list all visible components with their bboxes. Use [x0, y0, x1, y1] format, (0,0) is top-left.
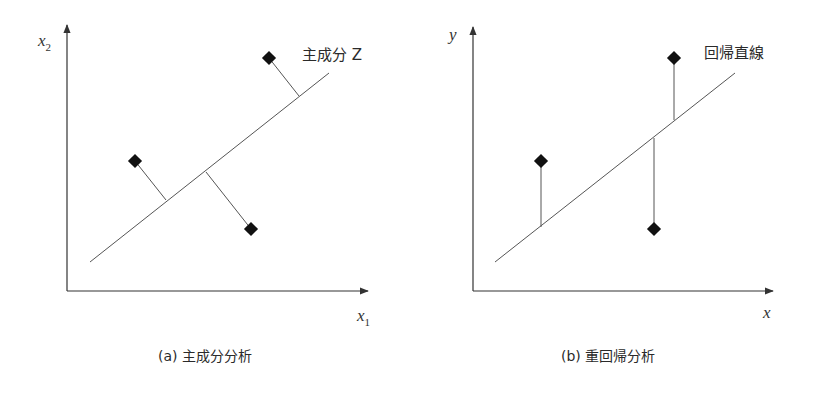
- x1-axis-label: x1: [356, 306, 370, 328]
- regression-line-label: 回帰直線: [704, 44, 764, 62]
- projection-line: [269, 58, 299, 96]
- projection-line: [135, 161, 166, 200]
- data-point-marker: [534, 154, 548, 168]
- data-point-marker: [262, 51, 276, 65]
- diagram-canvas: x2 x1 主成分 Z (a) 主成分分析 y x 回帰直線 (b) 重回帰分析: [0, 0, 813, 394]
- data-point-marker: [667, 51, 681, 65]
- regression-line: [495, 73, 735, 262]
- caption-b: (b) 重回帰分析: [561, 348, 655, 364]
- caption-a: (a) 主成分分析: [158, 348, 252, 364]
- projection-line: [206, 172, 251, 229]
- panel-b-regression: y x 回帰直線 (b) 重回帰分析: [447, 25, 773, 364]
- panel-a-pca: x2 x1 主成分 Z (a) 主成分分析: [37, 25, 370, 364]
- y-axis-label: y: [447, 25, 457, 44]
- x-axis-label: x: [762, 303, 771, 322]
- principal-component-line: [90, 73, 329, 262]
- data-point-marker: [244, 222, 258, 236]
- data-point-marker: [647, 222, 661, 236]
- x2-axis-label: x2: [37, 31, 51, 53]
- data-point-marker: [128, 154, 142, 168]
- principal-component-label: 主成分 Z: [302, 46, 362, 64]
